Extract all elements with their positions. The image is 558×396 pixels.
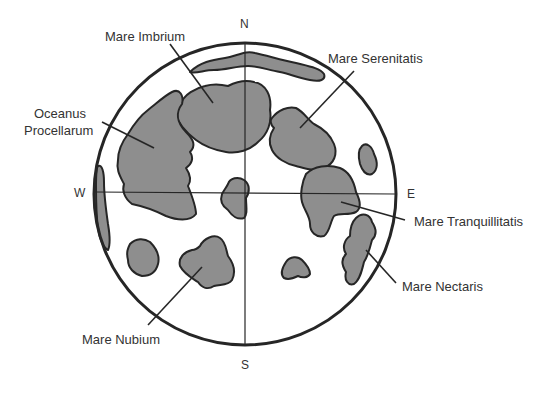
mare-serenitatis-shape	[270, 107, 336, 169]
small-east-mare-shape	[359, 144, 377, 174]
west-label: W	[74, 186, 86, 200]
western-small-mare-shape	[127, 239, 158, 276]
label-oceanus-line2: Procellarum	[24, 123, 93, 138]
leader-mare-nubium	[148, 267, 202, 325]
label-mare-tranquillitatis: Mare Tranquillitatis	[414, 214, 524, 229]
label-mare-nubium: Mare Nubium	[82, 332, 160, 347]
north-label: N	[240, 17, 249, 31]
south-label: S	[241, 358, 249, 372]
western-limb-mare-shape	[96, 166, 110, 250]
south-central-mare-shape	[282, 257, 310, 279]
east-label: E	[407, 187, 415, 201]
label-mare-serenitatis: Mare Serenitatis	[328, 51, 423, 66]
mare-nectaris-shape	[342, 215, 376, 285]
label-oceanus-line1: Oceanus	[34, 106, 87, 121]
moon-maria-diagram: N S W E Mare Imbrium Mare Serenitatis Oc…	[0, 0, 558, 396]
label-mare-nectaris: Mare Nectaris	[402, 279, 483, 294]
mare-nubium-shape	[180, 236, 234, 288]
label-mare-imbrium: Mare Imbrium	[105, 29, 185, 44]
